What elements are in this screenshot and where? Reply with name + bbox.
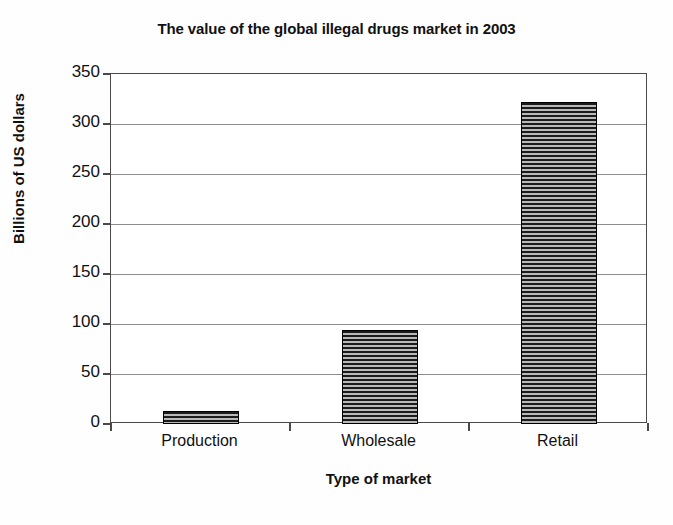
y-axis-title: Billions of US dollars — [10, 19, 27, 319]
y-axis-tick-label: 100 — [42, 312, 100, 332]
x-axis-tick-mark — [468, 423, 470, 431]
y-axis-tick-label: 300 — [42, 112, 100, 132]
x-axis-tick-label: Retail — [468, 432, 647, 450]
plot-area — [110, 73, 647, 423]
chart-title: The value of the global illegal drugs ma… — [0, 20, 673, 37]
y-axis-tick-label: 50 — [42, 362, 100, 382]
y-axis-tick-label: 250 — [42, 162, 100, 182]
x-axis-tick-mark — [110, 423, 112, 431]
bar-production — [163, 411, 239, 424]
x-axis-tick-label: Wholesale — [289, 432, 468, 450]
bar-chart: The value of the global illegal drugs ma… — [0, 0, 673, 525]
x-axis-title: Type of market — [110, 470, 647, 487]
x-axis-tick-mark — [289, 423, 291, 431]
bar-wholesale — [342, 330, 418, 424]
y-axis-tick-label: 150 — [42, 262, 100, 282]
y-axis-tick-label: 0 — [42, 412, 100, 432]
x-axis-tick-mark — [647, 423, 649, 431]
y-axis-tick-label: 350 — [42, 62, 100, 82]
x-axis-tick-label: Production — [110, 432, 289, 450]
y-axis-tick-label: 200 — [42, 212, 100, 232]
bar-retail — [521, 102, 597, 424]
